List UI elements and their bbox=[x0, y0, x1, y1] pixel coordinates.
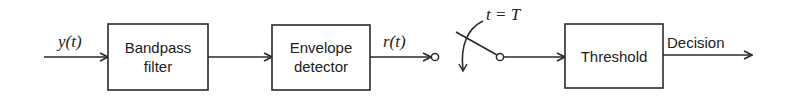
switch-timing-label: t = T bbox=[486, 5, 522, 24]
output-label: Decision bbox=[667, 34, 725, 51]
switch-pivot-terminal bbox=[496, 53, 503, 60]
sampling-switch bbox=[456, 21, 504, 71]
bandpass-label-line2: filter bbox=[144, 58, 172, 75]
envelope-detector-block: Envelope detector bbox=[272, 25, 370, 90]
receiver-block-diagram: y(t) Bandpass filter Envelope detector r… bbox=[0, 0, 790, 103]
switch-input-terminal bbox=[431, 53, 438, 60]
threshold-block: Threshold bbox=[565, 24, 663, 88]
bandpass-label-line1: Bandpass bbox=[125, 39, 192, 56]
input-signal-label: y(t) bbox=[56, 32, 82, 51]
threshold-label: Threshold bbox=[581, 48, 648, 65]
bandpass-filter-block: Bandpass filter bbox=[108, 24, 208, 90]
envelope-label-line1: Envelope bbox=[290, 39, 353, 56]
intermediate-signal-label: r(t) bbox=[383, 32, 406, 51]
envelope-label-line2: detector bbox=[294, 58, 348, 75]
